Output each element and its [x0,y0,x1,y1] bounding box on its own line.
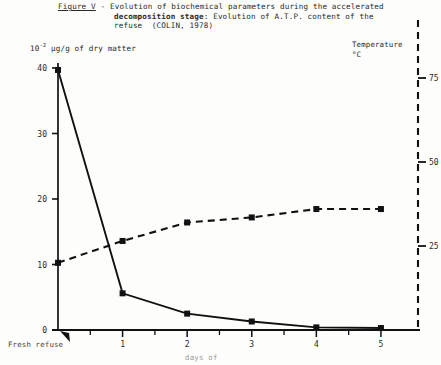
data-point-marker [184,219,190,225]
data-point-marker [120,290,126,296]
data-point-marker [378,206,384,212]
data-series-layer [55,67,384,342]
chart-plot: 010203040 255075 12345 [0,0,441,365]
x-tick-label: 1 [120,340,125,349]
left-axis-tick-labels: 010203040 [37,64,47,335]
data-point-marker [313,206,319,212]
x-axis-tick-labels: 12345 [120,340,383,349]
right-axis-tick-labels: 255075 [429,74,439,251]
data-point-marker [55,67,61,73]
left-tick-label: 10 [37,261,47,270]
right-axis-spine [418,20,420,330]
data-point-marker [55,260,61,266]
origin-pointer-icon [60,331,70,342]
data-point-marker [249,318,255,324]
right-tick-label: 50 [429,158,439,167]
right-tick-label: 25 [429,242,439,251]
left-tick-label: 20 [37,195,47,204]
x-tick-label: 4 [314,340,319,349]
left-tick-label: 0 [42,326,47,335]
x-tick-label: 2 [185,340,190,349]
series-line-1 [58,70,381,328]
right-axis-ticks [418,78,426,246]
x-axis-ticks [90,330,381,337]
data-point-marker [184,311,190,317]
data-point-marker [313,324,319,330]
left-tick-label: 40 [37,64,47,73]
data-point-marker [249,214,255,220]
data-point-marker [120,238,126,244]
data-point-marker [378,325,384,331]
figure-page: Figure V - Evolution of biochemical para… [0,0,441,365]
left-axis-ticks [52,68,58,330]
right-tick-label: 75 [429,74,439,83]
x-tick-label: 3 [249,340,254,349]
left-tick-label: 30 [37,130,47,139]
x-tick-label: 5 [379,340,384,349]
